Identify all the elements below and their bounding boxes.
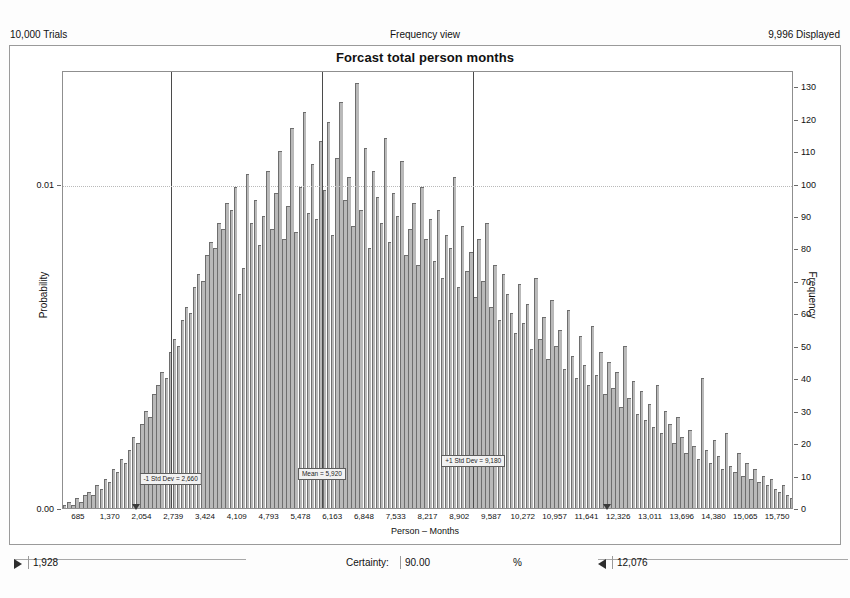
y-tickmark-left xyxy=(57,509,61,510)
histogram-bar xyxy=(91,495,94,508)
histogram-bar xyxy=(502,274,505,508)
histogram-bar xyxy=(705,450,708,508)
y-axis-left-title: Probability xyxy=(38,272,49,319)
x-tick: 7,533 xyxy=(386,512,406,521)
histogram-bar xyxy=(351,226,354,508)
plot-area[interactable]: -1 Std Dev = 2,660Mean = 5,920+1 Std Dev… xyxy=(62,71,793,509)
histogram-bar xyxy=(554,346,557,508)
x-tick: 685 xyxy=(71,512,84,521)
histogram-bar xyxy=(104,479,107,508)
histogram-bar xyxy=(729,466,732,508)
histogram-bar xyxy=(737,453,740,508)
histogram-bar xyxy=(782,485,785,508)
upper-bound-grabber[interactable] xyxy=(603,504,611,510)
histogram-bar xyxy=(550,300,553,508)
triangle-left-icon[interactable] xyxy=(598,559,606,569)
histogram-bar xyxy=(526,304,529,508)
histogram-bar xyxy=(790,498,793,508)
x-tick: 15,750 xyxy=(765,512,789,521)
histogram-bar xyxy=(668,424,671,508)
displayed-count: 9,996 Displayed xyxy=(768,27,840,42)
y-tickmark-right xyxy=(794,347,798,348)
histogram-bar xyxy=(465,271,468,508)
y-tick-right: 10 xyxy=(801,472,811,482)
x-tick: 4,109 xyxy=(227,512,247,521)
y-tick-right: 130 xyxy=(801,82,816,92)
histogram-bar xyxy=(408,229,411,508)
y-tick-right: 80 xyxy=(801,244,811,254)
x-tick: 2,739 xyxy=(163,512,183,521)
certainty-label: Certainty: xyxy=(346,557,389,568)
lower-bound-input[interactable]: 1,928 xyxy=(28,556,61,569)
histogram-bar xyxy=(538,339,541,508)
histogram-bar xyxy=(725,433,728,508)
histogram-bar xyxy=(355,83,358,508)
y-tick-left: 0.01 xyxy=(36,180,54,190)
histogram-bar xyxy=(697,459,700,508)
histogram-bar xyxy=(717,456,720,508)
histogram-bar xyxy=(644,420,647,508)
histogram-bar xyxy=(238,294,241,508)
histogram-bar xyxy=(311,164,314,508)
histogram-bar xyxy=(254,200,257,508)
histogram-bar xyxy=(514,333,517,508)
status-strip: 10,000 Trials Frequency view 9,996 Displ… xyxy=(8,27,842,42)
histogram-bar xyxy=(530,349,533,508)
upper-bound-input[interactable]: 12,076 xyxy=(612,556,651,569)
histogram-bar xyxy=(749,479,752,508)
y-tick-right: 120 xyxy=(801,115,816,125)
histogram-bar xyxy=(672,443,675,508)
triangle-right-icon[interactable] xyxy=(14,559,22,569)
histogram-bar xyxy=(733,472,736,508)
histogram-bar xyxy=(636,414,639,508)
histogram-bar xyxy=(160,372,163,508)
histogram-bar xyxy=(441,278,444,508)
histogram-bar xyxy=(124,463,127,508)
lower-bound-grabber[interactable] xyxy=(132,504,140,510)
histogram-bar xyxy=(299,187,302,508)
histogram-bar xyxy=(339,102,342,508)
y-tickmark-right xyxy=(794,509,798,510)
histogram-bar xyxy=(591,326,594,508)
histogram-bar xyxy=(623,346,626,508)
y-tickmark-right xyxy=(794,379,798,380)
y-tickmark-right xyxy=(794,477,798,478)
histogram-bar xyxy=(364,148,367,508)
y-tick-right: 70 xyxy=(801,277,811,287)
histogram-bar xyxy=(469,252,472,508)
x-tick: 6,163 xyxy=(322,512,342,521)
histogram-bar xyxy=(498,320,501,508)
x-tick: 14,380 xyxy=(701,512,725,521)
histogram-bars xyxy=(63,72,792,508)
x-tick: 10,272 xyxy=(511,512,535,521)
y-tickmark-right xyxy=(794,314,798,315)
x-tick: 3,424 xyxy=(195,512,215,521)
histogram-bar xyxy=(270,229,273,508)
histogram-bar xyxy=(542,317,545,508)
y-tickmark-right xyxy=(794,87,798,88)
histogram-bar xyxy=(262,216,265,508)
histogram-bar xyxy=(575,378,578,508)
histogram-bar xyxy=(437,210,440,508)
marker-line-mean xyxy=(322,72,323,508)
histogram-bar xyxy=(607,362,610,508)
y-tickmark-left xyxy=(57,185,61,186)
histogram-bar xyxy=(640,391,643,508)
histogram-bar xyxy=(315,219,318,508)
histogram-bar xyxy=(449,248,452,508)
x-tick: 10,957 xyxy=(542,512,566,521)
percent-symbol: % xyxy=(513,557,522,568)
marker-label-plus-1-std-dev: +1 Std Dev = 9,180 xyxy=(441,455,505,467)
histogram-bar xyxy=(230,210,233,508)
histogram-bar xyxy=(396,216,399,508)
y-tick-right: 40 xyxy=(801,374,811,384)
histogram-bar xyxy=(392,193,395,508)
certainty-input[interactable]: 90.00 xyxy=(400,556,433,569)
x-tick: 13,696 xyxy=(670,512,694,521)
histogram-bar xyxy=(420,187,423,508)
histogram-bar xyxy=(615,372,618,508)
y-tickmark-right xyxy=(794,249,798,250)
histogram-bar xyxy=(522,323,525,508)
gridline xyxy=(63,186,792,187)
histogram-bar xyxy=(692,446,695,508)
